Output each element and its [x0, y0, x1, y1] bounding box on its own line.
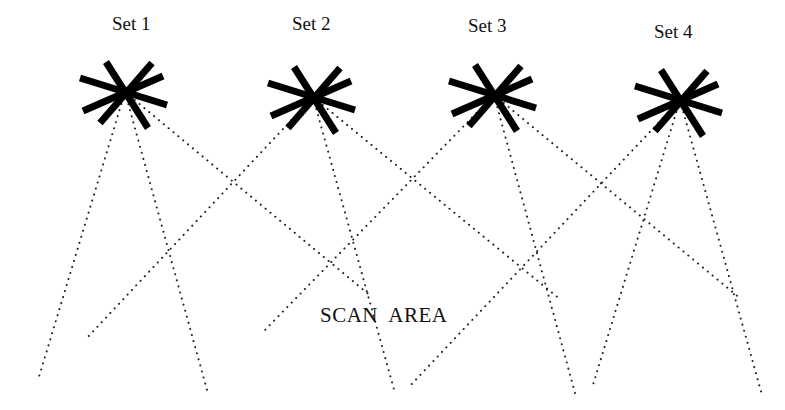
beam-group-set-4 — [408, 100, 762, 395]
scan-area-label: SCAN AREA — [320, 303, 448, 327]
beam-line — [408, 100, 680, 388]
set-label: Set 3 — [468, 15, 507, 36]
beam-line — [38, 92, 125, 380]
beam-line — [313, 97, 561, 300]
scan-diagram: Set 1Set 2Set 3Set 4 SCAN AREA — [0, 0, 785, 410]
set-label: Set 1 — [112, 13, 151, 34]
asterisk-light-source-icon — [635, 70, 722, 136]
beam-group-set-3 — [265, 95, 741, 393]
beam-group-set-2 — [85, 97, 561, 393]
set-label: Set 4 — [654, 21, 693, 42]
beam-line — [313, 97, 395, 393]
beam-line — [592, 100, 680, 388]
beam-group-set-1 — [38, 92, 372, 390]
asterisk-light-source-icon — [80, 62, 167, 128]
labels-layer: Set 1Set 2Set 3Set 4 — [112, 13, 693, 42]
beam-line — [125, 92, 372, 297]
beams-layer — [38, 92, 762, 395]
asterisk-light-source-icon — [268, 67, 355, 133]
beam-line — [265, 95, 494, 330]
asterisk-light-source-icon — [449, 65, 536, 131]
beam-line — [85, 97, 313, 340]
beam-line — [494, 95, 741, 299]
set-label: Set 2 — [292, 13, 331, 34]
beam-line — [494, 95, 575, 393]
beam-line — [680, 100, 762, 395]
beam-line — [125, 92, 207, 390]
light-sources-layer — [80, 62, 722, 136]
